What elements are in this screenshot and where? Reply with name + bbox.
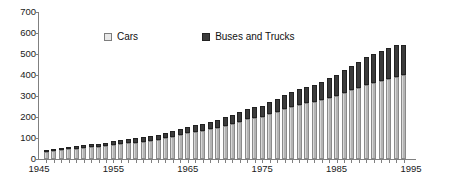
bar-segment-buses-and-trucks [394, 45, 399, 77]
bar-segment-cars [289, 107, 294, 159]
bar-segment-buses-and-trucks [342, 70, 347, 93]
x-minor-tick [210, 160, 211, 163]
bar-segment-cars [200, 131, 205, 159]
bar-column [304, 87, 309, 159]
bar-segment-buses-and-trucks [371, 54, 376, 83]
bar-column [371, 54, 376, 159]
bar-segment-cars [111, 145, 116, 159]
x-minor-tick [136, 160, 137, 163]
x-minor-tick [359, 160, 360, 163]
bar-segment-cars [118, 144, 123, 159]
bar-column [312, 85, 317, 159]
y-tick-label: 600 [2, 28, 36, 37]
bar-column [260, 106, 265, 159]
x-tick-label: 1975 [252, 163, 273, 174]
x-minor-tick [158, 160, 159, 163]
x-minor-tick [389, 160, 390, 163]
bar-segment-cars [208, 129, 213, 159]
bar-column [96, 144, 101, 159]
x-minor-tick [262, 160, 263, 163]
x-minor-tick [76, 160, 77, 163]
bar-segment-buses-and-trucks [327, 78, 332, 97]
x-minor-tick [381, 160, 382, 163]
bar-column [59, 148, 64, 159]
x-minor-tick [270, 160, 271, 163]
x-minor-tick [46, 160, 47, 163]
bar-segment-buses-and-trucks [334, 75, 339, 96]
bar-segment-buses-and-trucks [356, 62, 361, 88]
bar-column [74, 146, 79, 159]
bar-segment-buses-and-trucks [312, 85, 317, 102]
x-minor-tick [240, 160, 241, 163]
bar-segment-cars [66, 149, 71, 159]
y-tick-label: 200 [2, 112, 36, 121]
y-tick-label: 500 [2, 49, 36, 58]
bar-column [252, 107, 257, 159]
bar-column [364, 57, 369, 159]
bar-segment-cars [252, 118, 257, 159]
bar-segment-cars [319, 100, 324, 159]
bar-segment-buses-and-trucks [223, 117, 228, 125]
bar-column [297, 89, 302, 159]
x-minor-tick [329, 160, 330, 163]
bar-segment-cars [133, 143, 138, 159]
bar-column [118, 140, 123, 159]
bar-segment-cars [237, 122, 242, 159]
bar-column [170, 131, 175, 159]
bar-column [282, 95, 287, 159]
x-minor-tick [121, 160, 122, 163]
bar-column [185, 127, 190, 159]
bar-segment-cars [371, 83, 376, 159]
bar-segment-cars [81, 148, 86, 159]
bar-segment-buses-and-trucks [379, 51, 384, 81]
bar-segment-cars [364, 85, 369, 159]
x-minor-tick [61, 160, 62, 163]
x-minor-tick [99, 160, 100, 163]
bar-segment-cars [349, 90, 354, 159]
bar-segment-buses-and-trucks [319, 82, 324, 100]
bar-column [44, 150, 49, 159]
bar-column [163, 133, 168, 159]
x-minor-tick [344, 160, 345, 163]
bar-segment-cars [267, 114, 272, 159]
bar-segment-cars [297, 105, 302, 159]
bar-segment-buses-and-trucks [267, 102, 272, 114]
bar-column [327, 78, 332, 159]
bar-column [148, 136, 153, 159]
y-tick-label: 300 [2, 91, 36, 100]
x-tick-label: 1955 [103, 163, 124, 174]
x-minor-tick [299, 160, 300, 163]
bar-segment-cars [141, 142, 146, 159]
y-tick-label: 400 [2, 70, 36, 79]
bar-column [267, 102, 272, 159]
bar-column [193, 125, 198, 159]
bar-segment-cars [96, 147, 101, 159]
bar-segment-buses-and-trucks [215, 120, 220, 128]
x-minor-tick [84, 160, 85, 163]
plot-area [39, 12, 411, 159]
x-minor-tick [113, 160, 114, 163]
bar-segment-cars [89, 147, 94, 159]
x-minor-tick [255, 160, 256, 163]
x-tick-label: 1945 [28, 163, 49, 174]
bar-segment-cars [185, 133, 190, 159]
bar-segment-buses-and-trucks [282, 95, 287, 109]
bar-segment-cars [245, 119, 250, 159]
bar-segment-cars [282, 109, 287, 159]
x-minor-tick [143, 160, 144, 163]
bar-segment-cars [74, 149, 79, 160]
bar-segment-cars [170, 137, 175, 159]
bar-segment-cars [44, 152, 49, 159]
x-minor-tick [366, 160, 367, 163]
x-minor-tick [314, 160, 315, 163]
bar-segment-cars [215, 128, 220, 160]
bar-segment-cars [379, 81, 384, 159]
bar-segment-cars [126, 143, 131, 159]
bar-segment-buses-and-trucks [237, 112, 242, 122]
bar-segment-buses-and-trucks [193, 125, 198, 132]
x-axis-labels: 194519551965197519851995 [0, 163, 449, 183]
bar-column [245, 109, 250, 159]
bar-column [141, 137, 146, 159]
bar-segment-buses-and-trucks [401, 45, 406, 75]
bar-column [223, 117, 228, 159]
